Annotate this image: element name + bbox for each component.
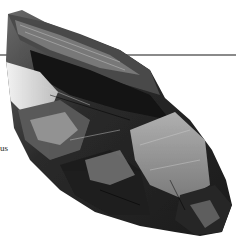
mineral-crystal-photo — [0, 0, 236, 240]
